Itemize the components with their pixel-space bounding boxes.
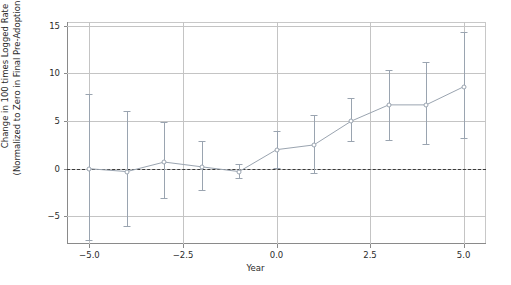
chart-figure: Change in 100 times Logged Rate (Normali… [0,0,511,285]
y-tick-mark [64,26,68,27]
data-point-marker [386,102,391,107]
y-tick-label: 15 [49,21,60,31]
x-axis-title: Year [0,263,511,273]
x-tick-mark [89,244,90,248]
y-tick-label: 5 [55,116,60,126]
data-point-marker [237,169,242,174]
y-tick-label: 0 [55,164,60,174]
y-axis-title: Change in 100 times Logged Rate (Normali… [0,0,23,219]
data-point-marker [311,142,316,147]
x-tick-mark [183,244,184,248]
data-point-marker [274,147,279,152]
data-point-marker [424,102,429,107]
data-point-marker [461,84,466,89]
y-tick-mark [64,216,68,217]
y-tick-mark [64,73,68,74]
data-point-marker [87,166,92,171]
data-point-marker [199,164,204,169]
data-point-marker [124,169,129,174]
x-tick-label: −5.0 [79,250,100,260]
x-tick-mark [464,244,465,248]
data-point-marker [162,160,167,165]
x-tick-label: 0.0 [270,250,284,260]
series-line [67,22,486,244]
y-tick-mark [64,169,68,170]
y-tick-mark [64,121,68,122]
x-tick-mark [370,244,371,248]
x-tick-label: 5.0 [457,250,471,260]
y-axis-title-line-1: Change in 100 times Logged Rate [0,0,11,219]
x-tick-label: −2.5 [173,250,194,260]
y-axis-title-line-2: (Normalized to Zero in Final Pre-Adoptio… [11,0,23,219]
x-tick-label: 2.5 [363,250,377,260]
data-point-marker [349,119,354,124]
x-tick-mark [277,244,278,248]
y-tick-label: −5 [47,211,60,221]
y-tick-label: 10 [49,68,60,78]
plot-area [67,22,486,244]
